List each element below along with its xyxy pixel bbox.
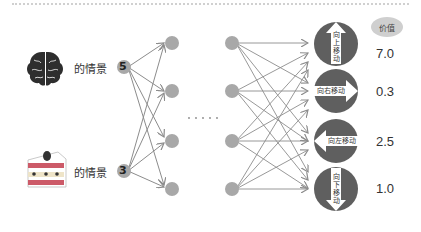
output-value-down: 1.0 — [376, 181, 394, 196]
ellipsis-dots — [188, 117, 218, 119]
input-value-brain: 5 — [119, 60, 127, 73]
output-label-left: 向左移动 — [326, 136, 358, 146]
output-value-left: 2.5 — [376, 134, 394, 149]
output-label-right: 向右移动 — [315, 86, 347, 96]
output-value-right: 0.3 — [376, 84, 394, 99]
output-value-up: 7.0 — [376, 46, 394, 61]
input-label-brain: 的情景 — [74, 60, 107, 76]
hidden-layer-1 — [165, 36, 179, 196]
input-edges — [128, 43, 164, 187]
output-label-up: 向上移动 — [331, 31, 341, 63]
cake-icon — [28, 151, 66, 187]
output-label-down: 向下移动 — [331, 173, 341, 205]
value-header-badge: 价值 — [371, 17, 403, 37]
neural-network-diagram — [0, 0, 421, 232]
output-edges — [236, 43, 308, 189]
hidden-layer-2 — [225, 36, 239, 196]
input-label-cake: 的情景 — [74, 164, 107, 180]
input-value-cake: 3 — [119, 164, 127, 177]
value-header-text: 价值 — [379, 22, 395, 33]
brain-icon — [27, 52, 63, 86]
